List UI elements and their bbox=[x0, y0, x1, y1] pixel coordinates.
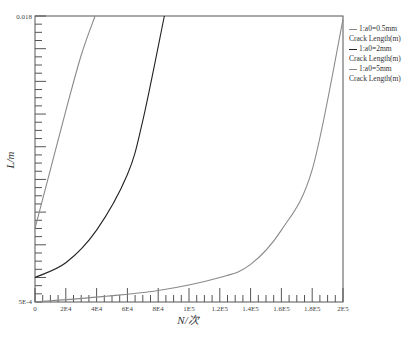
legend-label: 1:a0=5mm bbox=[359, 64, 392, 73]
plot-frame bbox=[35, 16, 343, 302]
legend-swatch bbox=[349, 69, 357, 70]
legend-swatch bbox=[349, 49, 357, 50]
series-line bbox=[35, 19, 343, 302]
legend-sublabel: Crack Length(m) bbox=[349, 34, 401, 43]
y-axis-ticks: 0.0185E-4 bbox=[16, 13, 46, 306]
x-tick-label: 6E4 bbox=[122, 305, 134, 313]
series-lines bbox=[35, 16, 343, 302]
series-line bbox=[35, 16, 164, 277]
legend-item: 1:a0=5mm Crack Length(m) bbox=[349, 64, 401, 84]
x-tick-label: 2E4 bbox=[60, 305, 72, 313]
legend-sublabel: Crack Length(m) bbox=[349, 54, 401, 63]
plot-area bbox=[35, 16, 343, 302]
legend: 1:a0=0.5mm Crack Length(m) 1:a0=2mm Crac… bbox=[349, 24, 401, 84]
x-tick-label: 1.8E5 bbox=[304, 305, 321, 313]
x-tick-label: 4E4 bbox=[91, 305, 103, 313]
legend-label: 1:a0=2mm bbox=[359, 44, 392, 53]
x-tick-label: 1E5 bbox=[183, 305, 195, 313]
x-tick-label: 1.4E5 bbox=[242, 305, 259, 313]
x-tick-label: 0 bbox=[33, 305, 37, 313]
legend-label: 1:a0=0.5mm bbox=[359, 24, 397, 33]
legend-item: 1:a0=2mm Crack Length(m) bbox=[349, 44, 401, 64]
x-axis-title: N/次 bbox=[176, 314, 200, 326]
legend-swatch bbox=[349, 29, 357, 30]
legend-sublabel: Crack Length(m) bbox=[349, 74, 401, 83]
x-tick-label: 1.6E5 bbox=[273, 305, 290, 313]
x-tick-label: 2E5 bbox=[337, 305, 349, 313]
series-line bbox=[35, 16, 95, 228]
x-tick-label: 1.2E5 bbox=[212, 305, 229, 313]
x-tick-label: 8E4 bbox=[153, 305, 165, 313]
y-tick-label: 0.018 bbox=[16, 13, 32, 21]
y-axis-title: L/m bbox=[4, 151, 16, 169]
x-axis-ticks: 02E44E46E48E41E51.2E51.4E51.6E51.8E52E5 bbox=[33, 288, 349, 313]
y-tick-label: 5E-4 bbox=[18, 298, 32, 306]
legend-item: 1:a0=0.5mm Crack Length(m) bbox=[349, 24, 401, 44]
